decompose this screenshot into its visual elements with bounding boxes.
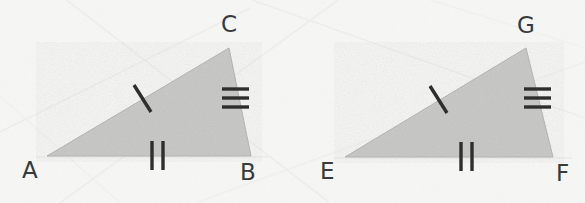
vertex-label-e: E bbox=[320, 158, 335, 184]
vertex-label-g: G bbox=[517, 12, 535, 38]
geometry-figure: A B C E F G bbox=[0, 0, 585, 203]
vertex-label-f: F bbox=[556, 160, 569, 186]
figure-canvas: A B C E F G bbox=[0, 0, 585, 203]
vertex-label-a: A bbox=[22, 157, 38, 183]
vertex-label-b: B bbox=[240, 159, 256, 185]
vertex-label-c: C bbox=[221, 11, 237, 37]
